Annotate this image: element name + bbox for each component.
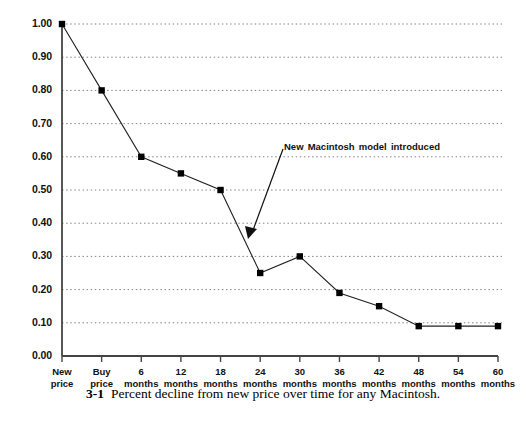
figure-caption: 3-1Percent decline from new price over t… xyxy=(0,386,526,402)
data-point-marker xyxy=(416,323,422,329)
data-point-marker xyxy=(376,303,382,309)
data-point-marker xyxy=(98,87,104,93)
figure-caption-number: 3-1 xyxy=(86,386,104,401)
annotation-label: New Macintosh model introduced xyxy=(284,141,440,152)
y-axis-tick-label: 0.10 xyxy=(18,316,52,328)
data-series-line xyxy=(62,24,498,326)
x-axis-tick-label-line1: 60 xyxy=(471,366,525,378)
y-axis-tick-label: 0.70 xyxy=(18,117,52,129)
y-axis-tick-label: 0.20 xyxy=(18,283,52,295)
gridlines-group xyxy=(62,24,502,323)
data-point-markers-group xyxy=(59,21,501,330)
data-point-marker xyxy=(217,187,223,193)
figure-container: 0.000.100.200.300.400.500.600.700.800.90… xyxy=(0,0,526,421)
y-axis-tick-label: 0.00 xyxy=(18,349,52,361)
line-chart-plot xyxy=(0,0,526,421)
data-point-marker xyxy=(336,290,342,296)
y-axis-tick-label: 0.80 xyxy=(18,83,52,95)
annotation-arrowhead xyxy=(245,226,257,239)
y-axis-tick-label: 0.30 xyxy=(18,249,52,261)
figure-caption-text: Percent decline from new price over time… xyxy=(111,386,440,401)
y-axis-tick-label: 1.00 xyxy=(18,17,52,29)
data-point-marker xyxy=(178,170,184,176)
data-point-marker xyxy=(138,154,144,160)
axes-group xyxy=(62,22,498,356)
data-point-marker xyxy=(257,270,263,276)
y-axis-tick-label: 0.60 xyxy=(18,150,52,162)
data-point-marker xyxy=(297,253,303,259)
annotation-leader-line-group xyxy=(245,149,283,239)
data-point-marker xyxy=(455,323,461,329)
y-axis-tick-label: 0.50 xyxy=(18,183,52,195)
y-axis-tick-label: 0.40 xyxy=(18,216,52,228)
y-axis-tick-label: 0.90 xyxy=(18,50,52,62)
data-point-marker xyxy=(59,21,65,27)
data-point-marker xyxy=(495,323,501,329)
annotation-leader-line xyxy=(252,149,283,233)
